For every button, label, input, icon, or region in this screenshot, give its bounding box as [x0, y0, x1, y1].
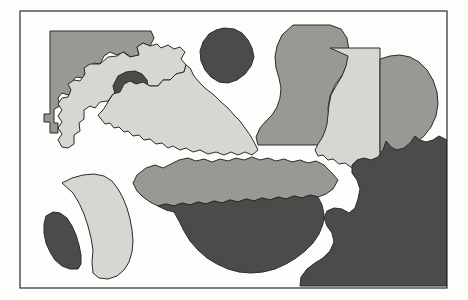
abstract-region-figure: [0, 0, 468, 300]
figure-container: Scanned line drawing of irregular overla…: [0, 0, 468, 300]
